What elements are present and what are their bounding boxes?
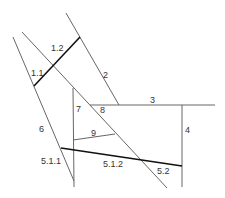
segment-label: 1.1 (31, 68, 44, 78)
tree-diagram: 1.21.123784695.1.15.1.25.2 (0, 0, 225, 198)
segment-label: 5.1.2 (103, 159, 123, 169)
segment-label: 1.2 (51, 43, 64, 53)
segment-label: 5.2 (157, 166, 170, 176)
segment-label: 3 (150, 95, 155, 105)
segment-2 (66, 13, 119, 105)
segment-label: 9 (91, 128, 96, 138)
segment-7 (73, 88, 74, 187)
segment-label: 8 (100, 105, 105, 115)
segment-label: 2 (103, 70, 108, 80)
segment-label: 6 (39, 124, 44, 134)
segment-label: 7 (76, 104, 81, 114)
segment-label: 5.1.1 (41, 156, 61, 166)
segment-label: 4 (185, 125, 190, 135)
